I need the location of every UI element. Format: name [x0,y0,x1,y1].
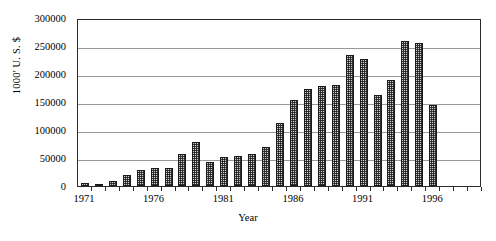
x-axis-tick [481,187,482,191]
x-axis-tick [272,187,273,191]
bar [248,154,256,186]
x-axis-tick-label: 1991 [352,193,373,205]
x-axis-tick [370,187,371,191]
bar [346,55,354,186]
x-axis-tick [175,187,176,191]
x-axis-tick [467,187,468,191]
bar [192,142,200,186]
x-axis-tick [133,187,134,191]
bar [81,183,89,186]
x-axis-tick [425,187,426,191]
x-axis-tick [383,187,384,191]
x-axis-title: Year [0,212,496,223]
x-axis-tick [119,187,120,191]
bar [276,123,284,186]
x-axis-tick [91,187,92,191]
bar [401,41,409,186]
x-axis-tick-label: 1981 [213,193,234,205]
bar [387,80,395,186]
bar [123,175,131,186]
bar [234,156,242,186]
bar [318,86,326,186]
x-axis-tick-label: 1976 [143,193,164,205]
bar [290,100,298,186]
x-axis-ticks [77,187,481,192]
x-axis-tick-labels: 197119761981198619911996 [0,193,496,209]
bar [429,105,437,186]
x-axis-tick [439,187,440,191]
bar [262,147,270,186]
bar [137,170,145,186]
x-axis-tick [314,187,315,191]
y-axis-tick-label: 100000 [35,126,67,136]
x-axis-tick [216,187,217,191]
bar-chart: 1000' U. S. $ 30000025000020000015000010… [0,0,496,241]
y-axis-tick-label: 50000 [40,154,66,164]
x-axis-tick-label: 1996 [422,193,443,205]
x-axis-tick [453,187,454,191]
x-axis-tick [342,187,343,191]
bar [304,89,312,186]
x-axis-tick-label: 1986 [282,193,303,205]
x-axis-tick [105,187,106,191]
y-axis-tick-label: 150000 [35,98,67,108]
bar [109,181,117,186]
x-axis-tick [286,187,287,191]
x-axis-tick [161,187,162,191]
x-axis-tick [188,187,189,191]
bar [165,168,173,186]
x-axis-tick [258,187,259,191]
y-axis-tick-label: 0 [61,182,66,192]
bar [374,95,382,186]
bars-layer [78,20,480,186]
bar [151,168,159,186]
bar [360,59,368,186]
x-axis-tick [328,187,329,191]
bar [415,43,423,186]
x-axis-tick-label: 1971 [73,193,94,205]
bar [220,157,228,186]
y-axis-tick-label: 200000 [35,70,67,80]
x-axis-tick [202,187,203,191]
x-axis-tick [397,187,398,191]
x-axis-tick [147,187,148,191]
x-axis-tick [411,187,412,191]
x-axis-tick [244,187,245,191]
y-axis-tick-label: 250000 [35,42,67,52]
x-axis-tick [230,187,231,191]
x-axis-tick [356,187,357,191]
plot-area [77,19,481,187]
bar [95,184,103,186]
x-axis-tick [300,187,301,191]
y-axis-tick-label: 300000 [35,14,67,24]
bar [206,162,214,186]
bar [332,85,340,186]
bar [178,154,186,186]
